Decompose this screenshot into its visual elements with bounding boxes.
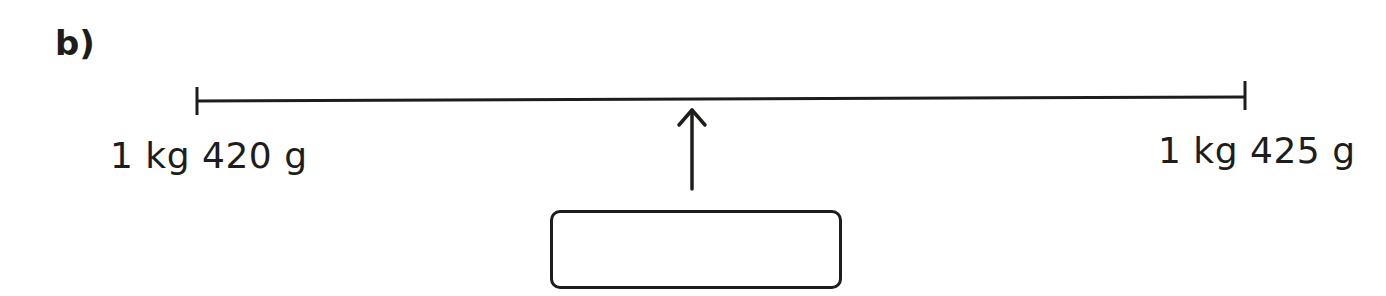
number-line-end-label: 1 kg 425 g (1158, 133, 1356, 169)
answer-box[interactable] (550, 210, 842, 289)
up-arrow-icon (679, 110, 705, 189)
number-line-axis (197, 81, 1245, 115)
number-line-start-label: 1 kg 420 g (110, 138, 308, 174)
